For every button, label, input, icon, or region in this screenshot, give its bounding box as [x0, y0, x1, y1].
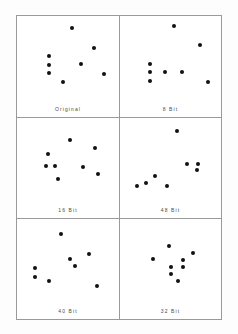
panel-32-bit: 32 Bit [119, 218, 221, 319]
scatter-point [47, 54, 51, 58]
scatter-point [181, 258, 185, 262]
scatter-point [102, 72, 106, 76]
scatter-point [148, 70, 152, 74]
scatter-point [96, 172, 100, 176]
scatter-point [181, 265, 185, 269]
scatter-point [79, 62, 83, 66]
scatter-point [61, 80, 65, 84]
plot-area-32-bit [120, 219, 221, 301]
scatter-point [81, 165, 85, 169]
scatter-point [153, 174, 157, 178]
scatter-point [169, 272, 173, 276]
scatter-point [165, 184, 169, 188]
scatter-point [73, 264, 77, 268]
panel-caption: 32 Bit [120, 308, 221, 314]
panel-40-bit: 40 Bit [17, 218, 119, 319]
scatter-point [70, 26, 74, 30]
scatter-point [33, 266, 37, 270]
scatter-point [169, 265, 173, 269]
scatter-panel-grid: Original 8 Bit 16 Bit 48 Bit 40 Bit 32 B… [16, 15, 222, 320]
scatter-point [148, 62, 152, 66]
scatter-point [47, 71, 51, 75]
scatter-point [144, 181, 148, 185]
scatter-point [185, 162, 189, 166]
scatter-point [167, 244, 171, 248]
scatter-point [47, 279, 51, 283]
scatter-point [53, 164, 57, 168]
panel-caption: 16 Bit [17, 207, 119, 213]
scatter-point [163, 70, 167, 74]
scatter-point [175, 129, 179, 133]
scatter-point [44, 164, 48, 168]
plot-area-48-bit [120, 118, 221, 200]
scatter-point [87, 252, 91, 256]
scatter-point [56, 177, 60, 181]
scatter-point [180, 70, 184, 74]
scatter-point [68, 138, 72, 142]
scatter-point [46, 152, 50, 156]
clipped-header-text: · · · [14, 0, 37, 4]
scatter-point [148, 79, 152, 83]
scatter-point [195, 168, 199, 172]
scatter-point [151, 257, 155, 261]
scatter-point [206, 80, 210, 84]
scatter-point [59, 232, 63, 236]
panel-8-bit: 8 Bit [119, 16, 221, 117]
clipped-header-strip: · · · [0, 0, 238, 11]
panel-caption: 8 Bit [120, 106, 221, 112]
scatter-point [135, 184, 139, 188]
scatter-point [93, 146, 97, 150]
scatter-point [95, 284, 99, 288]
plot-area-original [17, 16, 119, 99]
scatter-point [92, 46, 96, 50]
scatter-point [196, 162, 200, 166]
plot-area-8-bit [120, 16, 221, 99]
scatter-point [68, 257, 72, 261]
scatter-point [191, 251, 195, 255]
panel-caption: 48 Bit [120, 207, 221, 213]
scatter-point [176, 279, 180, 283]
scatter-point [33, 275, 37, 279]
panel-caption: Original [17, 106, 119, 112]
scatter-point [47, 63, 51, 67]
panel-original: Original [17, 16, 119, 117]
panel-caption: 40 Bit [17, 308, 119, 314]
plot-area-40-bit [17, 219, 119, 301]
panel-48-bit: 48 Bit [119, 117, 221, 218]
panel-16-bit: 16 Bit [17, 117, 119, 218]
scatter-point [172, 24, 176, 28]
plot-area-16-bit [17, 118, 119, 200]
scatter-point [198, 43, 202, 47]
figure-page: · · · Original 8 Bit 16 Bit 48 Bit 40 Bi… [0, 0, 238, 334]
